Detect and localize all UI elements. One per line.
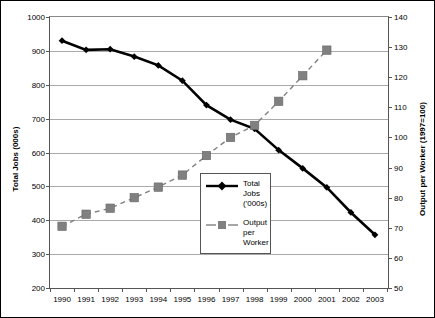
left-tick-label: 600 <box>32 148 45 157</box>
right-tick-mark <box>388 77 392 78</box>
data-point <box>131 53 138 60</box>
right-axis-title: Output per Worker (1997=100) <box>418 59 427 259</box>
data-point <box>106 204 114 212</box>
left-tick-label: 900 <box>32 46 45 55</box>
x-tick-mark <box>146 288 147 292</box>
data-point <box>274 97 282 105</box>
x-tick-label: 2000 <box>294 295 312 304</box>
right-tick-mark <box>388 258 392 259</box>
right-tick-label: 130 <box>394 43 407 52</box>
x-tick-mark <box>339 288 340 292</box>
x-tick-label: 1994 <box>149 295 167 304</box>
data-point <box>130 193 138 201</box>
right-tick-mark <box>388 137 392 138</box>
data-point <box>107 46 114 53</box>
x-tick-mark <box>98 288 99 292</box>
x-tick-label: 1991 <box>77 295 95 304</box>
legend-key-output-per-worker <box>205 218 239 232</box>
x-tick-mark <box>387 288 388 292</box>
x-tick-mark <box>219 288 220 292</box>
right-tick-mark <box>388 228 392 229</box>
left-tick-label: 1000 <box>27 13 45 22</box>
data-point <box>154 183 162 191</box>
x-tick-mark <box>363 288 364 292</box>
x-tick-label: 1998 <box>246 295 264 304</box>
x-tick-label: 2001 <box>318 295 336 304</box>
left-tick-label: 800 <box>32 80 45 89</box>
left-axis-title: Total Jobs (000s) <box>11 59 20 259</box>
data-point <box>59 37 66 44</box>
data-point <box>83 46 90 53</box>
left-tick-label: 700 <box>32 114 45 123</box>
x-tick-mark <box>122 288 123 292</box>
right-tick-mark <box>388 47 392 48</box>
right-tick-mark <box>388 107 392 108</box>
right-tick-label: 60 <box>394 253 403 262</box>
series-output-per-worker <box>58 46 331 231</box>
x-tick-mark <box>315 288 316 292</box>
right-tick-label: 120 <box>394 73 407 82</box>
right-tick-mark <box>388 198 392 199</box>
x-tick-mark <box>50 288 51 292</box>
right-tick-label: 110 <box>394 103 407 112</box>
right-tick-label: 70 <box>394 223 403 232</box>
x-tick-mark <box>267 288 268 292</box>
right-tick-mark <box>388 288 392 289</box>
x-tick-label: 1995 <box>173 295 191 304</box>
right-tick-mark <box>388 168 392 169</box>
x-tick-label: 1999 <box>270 295 288 304</box>
data-point <box>323 46 331 54</box>
left-tick-label: 300 <box>32 250 45 259</box>
x-tick-label: 2002 <box>342 295 360 304</box>
right-tick-label: 140 <box>394 13 407 22</box>
x-tick-mark <box>291 288 292 292</box>
right-tick-label: 50 <box>394 284 403 293</box>
data-point <box>299 72 307 80</box>
x-tick-mark <box>170 288 171 292</box>
x-tick-mark <box>194 288 195 292</box>
data-point <box>178 171 186 179</box>
left-tick-label: 200 <box>32 284 45 293</box>
right-tick-label: 80 <box>394 193 403 202</box>
chart-legend: Total Jobs ('000s) Output per Worker <box>200 173 271 254</box>
x-tick-label: 1990 <box>53 295 71 304</box>
left-tick-label: 500 <box>32 182 45 191</box>
data-point <box>202 151 210 159</box>
legend-item-total-jobs: Total Jobs ('000s) <box>205 179 266 209</box>
x-tick-label: 1992 <box>101 295 119 304</box>
chart-figure: Total Jobs (000s) Output per Worker (199… <box>0 0 435 318</box>
x-tick-label: 1996 <box>198 295 216 304</box>
data-point <box>82 210 90 218</box>
data-point <box>226 133 234 141</box>
legend-key-total-jobs <box>205 179 239 193</box>
legend-item-output-per-worker: Output per Worker <box>205 218 266 248</box>
x-tick-mark <box>243 288 244 292</box>
left-tick-label: 400 <box>32 216 45 225</box>
x-tick-label: 1997 <box>222 295 240 304</box>
plot-area: 2003004005006007008009001000 50607080901… <box>49 16 389 289</box>
right-tick-label: 100 <box>394 133 407 142</box>
right-tick-mark <box>388 17 392 18</box>
data-point <box>58 222 66 230</box>
x-tick-mark <box>74 288 75 292</box>
legend-label-total-jobs: Total Jobs ('000s) <box>243 179 267 209</box>
x-tick-label: 2003 <box>366 295 384 304</box>
legend-label-output-per-worker: Output per Worker <box>243 218 269 248</box>
data-point <box>250 121 258 129</box>
x-tick-label: 1993 <box>125 295 143 304</box>
right-tick-label: 90 <box>394 163 403 172</box>
